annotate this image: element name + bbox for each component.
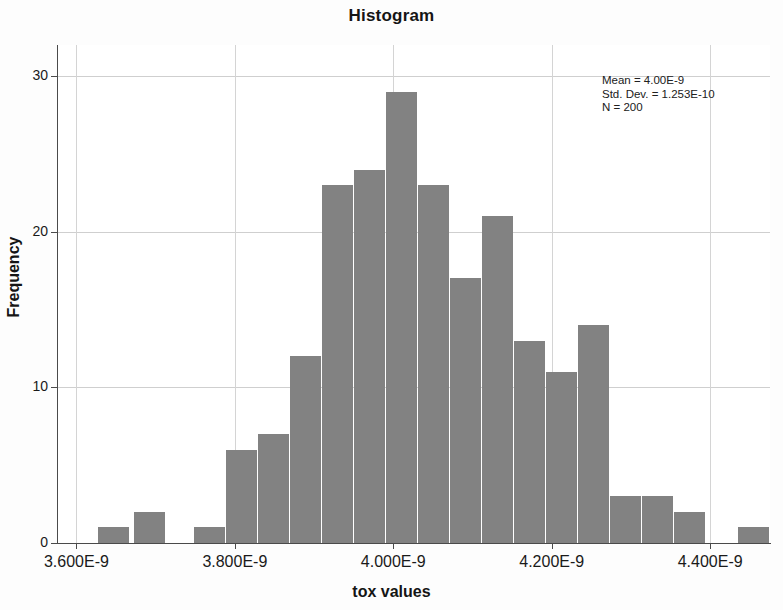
x-axis-line xyxy=(57,543,771,544)
x-axis-title: tox values xyxy=(0,583,783,601)
y-tick-mark xyxy=(51,543,57,544)
histogram-bar xyxy=(418,185,449,543)
gridline-vertical xyxy=(76,45,77,543)
histogram-bar xyxy=(642,496,673,543)
y-tick-label: 20 xyxy=(32,223,48,239)
histogram-bar xyxy=(450,278,481,543)
stddev-label: Std. Dev. = 1.253E-10 xyxy=(602,88,715,102)
x-tick-mark xyxy=(235,543,236,549)
histogram-bar xyxy=(482,216,513,543)
histogram-bar xyxy=(514,341,545,543)
x-tick-mark xyxy=(393,543,394,549)
y-tick-label: 0 xyxy=(40,534,48,550)
histogram-bar xyxy=(194,527,225,543)
y-tick-mark xyxy=(51,76,57,77)
histogram-bar xyxy=(674,512,705,543)
x-tick-label: 3.800E-9 xyxy=(202,553,267,571)
statistics-annotation: Mean = 4.00E-9 Std. Dev. = 1.253E-10 N =… xyxy=(602,74,715,115)
histogram-bar xyxy=(546,372,577,543)
histogram-bar xyxy=(226,450,257,543)
y-tick-mark xyxy=(51,387,57,388)
x-tick-label: 4.200E-9 xyxy=(519,553,584,571)
histogram-bar xyxy=(578,325,609,543)
x-tick-mark xyxy=(76,543,77,549)
plot-area xyxy=(57,45,770,543)
x-tick-mark xyxy=(552,543,553,549)
histogram-bar xyxy=(610,496,641,543)
gridline-vertical xyxy=(710,45,711,543)
page-title: Histogram xyxy=(0,6,783,26)
n-label: N = 200 xyxy=(602,101,715,115)
x-tick-mark xyxy=(710,543,711,549)
x-tick-label: 4.000E-9 xyxy=(361,553,426,571)
y-tick-label: 30 xyxy=(32,67,48,83)
y-axis-line xyxy=(57,45,58,544)
y-axis-title: Frequency xyxy=(5,177,23,377)
histogram-bar xyxy=(98,527,129,543)
histogram-bar xyxy=(258,434,289,543)
x-tick-label: 3.600E-9 xyxy=(44,553,109,571)
x-tick-label: 4.400E-9 xyxy=(678,553,743,571)
histogram-figure: Histogram 0102030 3.600E-93.800E-94.000E… xyxy=(0,0,783,610)
y-tick-label: 10 xyxy=(32,378,48,394)
histogram-bar xyxy=(386,92,417,543)
histogram-bar xyxy=(322,185,353,543)
histogram-bar xyxy=(134,512,165,543)
mean-label: Mean = 4.00E-9 xyxy=(602,74,715,88)
histogram-bar xyxy=(738,527,769,543)
histogram-bar xyxy=(354,170,385,544)
histogram-bar xyxy=(290,356,321,543)
y-tick-mark xyxy=(51,232,57,233)
